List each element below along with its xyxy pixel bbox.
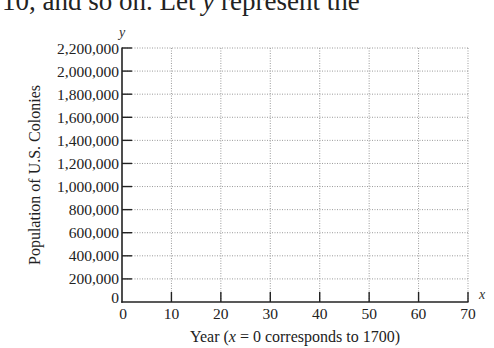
x-axis-variable: x [478,287,486,302]
y-tick-label: 1,400,000 [57,132,119,149]
x-axis-ticks: 010203040506070 [119,292,476,322]
y-axis-variable: y [117,25,126,40]
x-tick-label: 10 [164,305,180,322]
x-tick-label: 50 [361,305,377,322]
y-tick-label: 1,200,000 [57,155,119,172]
y-tick-label: 400,000 [69,247,120,264]
x-axis-title-prefix: Year ( [190,328,229,346]
x-tick-label: 60 [411,305,427,322]
x-tick-label: 20 [213,305,229,322]
x-tick-label: 30 [263,305,279,322]
y-tick-label: 2,200,000 [57,40,119,57]
y-tick-label: 0 [111,289,119,306]
y-tick-label: 1,000,000 [57,178,119,195]
x-axis-title: Year (x = 0 corresponds to 1700) [190,328,400,346]
grid-lines [122,48,468,302]
y-tick-label: 800,000 [69,201,120,218]
axes [121,48,468,303]
x-axis-title-suffix: = 0 corresponds to 1700) [236,328,400,346]
x-axis-title-var: x [228,328,236,345]
population-chart: 0200,000400,000600,000800,0001,000,0001,… [0,0,494,348]
y-tick-label: 200,000 [69,270,120,287]
x-tick-label: 40 [312,305,328,322]
y-tick-label: 2,000,000 [57,63,119,80]
y-axis-title: Population of U.S. Colonies [26,85,44,265]
y-tick-label: 600,000 [69,224,120,241]
x-tick-label: 0 [119,305,127,322]
y-tick-label: 1,800,000 [57,86,119,103]
y-tick-label: 1,600,000 [57,109,119,126]
x-tick-label: 70 [460,305,476,322]
y-axis-ticks: 0200,000400,000600,000800,0001,000,0001,… [57,40,132,307]
